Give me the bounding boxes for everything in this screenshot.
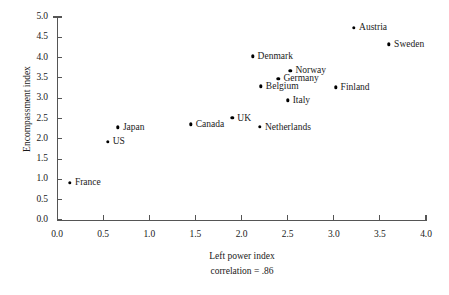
y-axis-tick-label: 5.0: [8, 12, 48, 22]
data-point-label: Italy: [293, 96, 310, 106]
y-axis-tick-label: 1.0: [8, 174, 48, 184]
data-point-marker: [289, 69, 292, 72]
data-point-marker: [277, 77, 280, 80]
y-axis-tick-label: 0.5: [8, 195, 48, 205]
y-axis-tick-label: 4.5: [8, 32, 48, 42]
data-point-label: Sweden: [394, 40, 424, 50]
y-axis-tick: [57, 77, 62, 78]
data-point-marker: [286, 99, 289, 102]
x-axis-tick: [425, 215, 426, 221]
data-point-label: Finland: [341, 83, 370, 93]
data-point-label: Denmark: [258, 52, 293, 62]
x-axis-tick-label: 3.0: [314, 230, 354, 240]
y-axis-tick: [53, 16, 62, 17]
x-axis-tick-label: 0.0: [37, 230, 77, 240]
x-axis-tick-label: 1.5: [175, 230, 215, 240]
data-point-marker: [387, 42, 390, 45]
data-point-label: UK: [237, 114, 251, 124]
data-point-label: Austria: [359, 24, 387, 34]
y-axis-tick-label: 4.0: [8, 53, 48, 63]
data-point-marker: [352, 26, 355, 29]
x-axis-tick-label: 2.5: [268, 230, 308, 240]
y-axis-tick-label: 2.0: [8, 134, 48, 144]
y-axis-tick: [57, 179, 62, 180]
data-point-label: France: [75, 178, 101, 188]
y-axis-tick-label: 1.5: [8, 154, 48, 164]
y-axis-tick: [57, 138, 62, 139]
data-point-label: Netherlands: [265, 123, 311, 133]
x-axis-tick: [103, 215, 104, 221]
data-point-marker: [258, 125, 261, 128]
y-axis-tick-label: 0.0: [8, 215, 48, 225]
plot-area: Encompassment index Left power index cor…: [0, 0, 449, 295]
x-axis-tick: [241, 215, 242, 221]
data-point-marker: [116, 126, 119, 129]
data-point-label: Norway: [295, 67, 326, 77]
x-axis-tick: [149, 215, 150, 221]
data-point-marker: [259, 85, 262, 88]
x-axis-tick-label: 1.0: [129, 230, 169, 240]
data-point-marker: [68, 181, 71, 184]
y-axis-tick: [57, 57, 62, 58]
y-axis-tick: [57, 98, 62, 99]
x-axis-tick-label: 3.5: [360, 230, 400, 240]
correlation-annotation: correlation = .86: [137, 266, 347, 276]
x-axis-tick: [379, 215, 380, 221]
x-axis-tick: [287, 215, 288, 221]
data-point-marker: [334, 86, 337, 89]
y-axis-tick: [57, 219, 62, 220]
data-point-label: Canada: [196, 120, 225, 130]
y-axis-tick: [57, 37, 62, 38]
y-axis-tick-label: 3.0: [8, 93, 48, 103]
y-axis-tick-label: 2.5: [8, 114, 48, 124]
scatter-chart: Encompassment index Left power index cor…: [0, 0, 449, 295]
y-axis-tick-label: 3.5: [8, 73, 48, 83]
data-point-marker: [189, 122, 192, 125]
x-axis-title: Left power index: [137, 251, 347, 261]
data-point-label: Japan: [123, 123, 145, 133]
data-point-label: US: [113, 137, 125, 147]
y-axis-tick: [57, 118, 62, 119]
x-axis-tick-label: 2.0: [222, 230, 262, 240]
x-axis-tick: [333, 215, 334, 221]
x-axis-tick-label: 0.5: [83, 230, 123, 240]
data-point-marker: [251, 55, 254, 58]
x-axis-tick: [195, 215, 196, 221]
x-axis-tick-label: 4.0: [406, 230, 446, 240]
y-axis-tick: [57, 199, 62, 200]
data-point-marker: [106, 140, 109, 143]
y-axis-tick: [57, 159, 62, 160]
data-point-marker: [231, 116, 234, 119]
